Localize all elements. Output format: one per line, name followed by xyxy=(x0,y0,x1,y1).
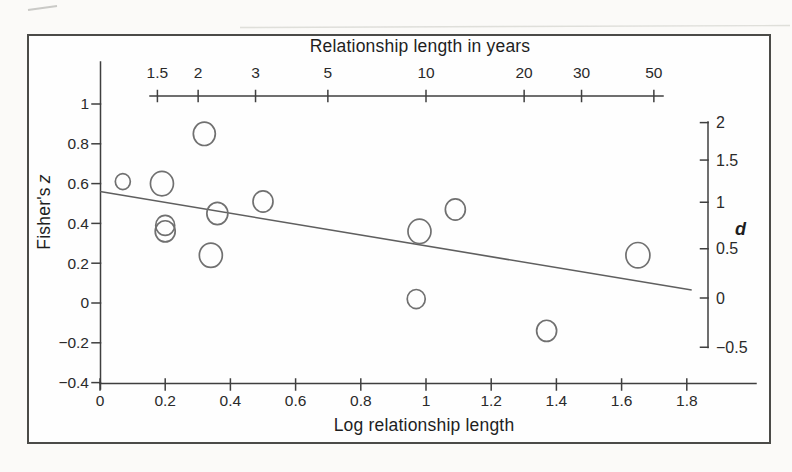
top-axis-tick-label: 2 xyxy=(194,64,203,81)
x-axis-tick-label: 1.6 xyxy=(611,392,633,409)
scan-artifact-mark xyxy=(28,6,57,10)
data-point xyxy=(445,199,465,220)
data-point xyxy=(253,191,273,212)
y-axis-title: Fisher'sz xyxy=(34,100,58,324)
x-axis-tick-label: 0.2 xyxy=(154,392,176,409)
x-axis-tick-label: 0.8 xyxy=(350,392,372,409)
y-axis-tick-label: 1 xyxy=(80,95,89,112)
y-axis-tick-label: 0.8 xyxy=(67,135,89,152)
top-axis-tick-label: 30 xyxy=(573,64,591,81)
regression-line xyxy=(100,192,692,291)
x-axis-tick-label: 1 xyxy=(422,392,431,409)
x-axis-tick-label: 1.2 xyxy=(480,392,502,409)
y-axis-tick-label: 0.6 xyxy=(67,175,89,192)
scan-artifact-line xyxy=(240,26,790,28)
d-axis-tick-label: 1.5 xyxy=(716,152,738,169)
y-axis-tick-label: −0.4 xyxy=(58,374,89,391)
top-axis-tick-label: 5 xyxy=(324,64,333,81)
scatter-plot: 10.80.60.40.20−0.2−0.400.20.40.60.811.21… xyxy=(0,0,792,472)
top-axis-tick-label: 10 xyxy=(417,64,435,81)
data-point xyxy=(156,215,175,235)
y-axis-tick-label: 0.4 xyxy=(67,215,89,232)
d-axis-tick-label: 0.5 xyxy=(716,240,738,257)
y-axis-tick-label: −0.2 xyxy=(58,334,89,351)
top-axis-tick-label: 50 xyxy=(645,64,663,81)
data-point xyxy=(407,289,425,308)
d-axis-tick-label: 2 xyxy=(716,114,725,131)
x-axis-tick-label: 1.4 xyxy=(546,392,568,409)
data-point xyxy=(537,320,557,341)
data-point xyxy=(193,122,215,145)
data-point xyxy=(408,219,431,243)
top-axis-tick-label: 3 xyxy=(251,64,260,81)
data-point xyxy=(115,174,130,190)
data-point xyxy=(626,243,650,268)
top-axis-tick-label: 1.5 xyxy=(147,64,169,81)
d-axis-tick-label: 0 xyxy=(716,290,725,307)
x-axis-title: Log relationship length xyxy=(104,415,744,436)
y-axis-title-text: Fisher's xyxy=(34,187,54,249)
data-point xyxy=(150,171,173,195)
d-axis-title: d xyxy=(735,219,746,240)
x-axis-tick-label: 0.4 xyxy=(220,392,242,409)
x-axis-tick-label: 0 xyxy=(96,392,105,409)
top-axis-tick-label: 20 xyxy=(516,64,534,81)
data-point xyxy=(207,202,228,224)
d-axis-tick-label: 1 xyxy=(716,194,725,211)
y-axis-title-z: z xyxy=(34,174,54,187)
x-axis-tick-label: 1.8 xyxy=(676,392,698,409)
top-axis-title: Relationship length in years xyxy=(100,36,740,57)
y-axis-tick-label: 0 xyxy=(80,294,89,311)
d-axis-tick-label: −0.5 xyxy=(716,339,748,356)
data-point xyxy=(199,243,222,267)
y-axis-tick-label: 0.2 xyxy=(67,255,89,272)
x-axis-tick-label: 0.6 xyxy=(285,392,307,409)
